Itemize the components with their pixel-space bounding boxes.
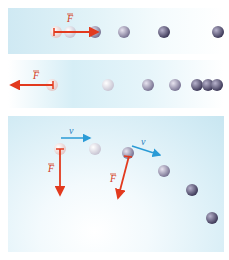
ball [89,143,101,155]
ball [102,79,114,91]
ball [158,26,170,38]
force-arrow-down-1 [56,149,64,195]
ball [212,26,224,38]
force-label-1: F [66,13,74,24]
ball [191,79,203,91]
ball [206,212,218,224]
ball [158,165,170,177]
force-arrow-diagonal [118,156,132,198]
force-label-2: F [32,70,40,81]
force-label-3: F [47,163,55,174]
ball [142,79,154,91]
ball [186,184,198,196]
velocity-arrow-2 [132,146,160,155]
ball [118,26,130,38]
balls-row-2 [46,79,223,91]
velocity-label-2: v [141,136,146,147]
ball [211,79,223,91]
ball [169,79,181,91]
motion-diagram: F F v F v F [0,0,229,260]
force-label-4: F [109,173,117,184]
velocity-label-1: v [69,125,74,136]
balls-curve-right [122,147,218,224]
